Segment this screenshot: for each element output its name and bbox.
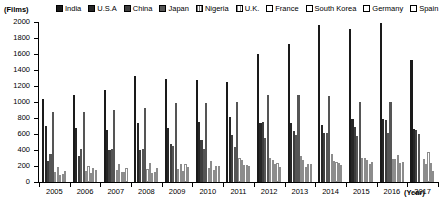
x-axis-tickmark: [438, 182, 439, 187]
x-axis-tickmark: [254, 182, 255, 187]
bar: [248, 166, 250, 182]
x-axis-tickmark: [39, 182, 40, 187]
y-axis-tick-label: 400: [17, 146, 30, 154]
y-axis-tick-label: 0: [26, 178, 30, 186]
legend-swatch-icon: [159, 5, 166, 12]
bar: [64, 171, 66, 182]
x-axis-tickmark: [100, 182, 101, 187]
bar: [371, 162, 373, 182]
legend-item-india[interactable]: India: [56, 5, 81, 13]
x-axis-tick-label: 2011: [223, 188, 254, 196]
legend-swatch-icon: [236, 5, 243, 12]
x-axis-tickmark: [192, 182, 193, 187]
x-axis-tickmark: [285, 182, 286, 187]
y-axis-labels: 2000180016001400120010008006004002000: [0, 22, 34, 182]
legend-swatch-icon: [124, 5, 131, 12]
y-axis-tick-label: 1400: [13, 66, 30, 74]
bar-group: [254, 22, 285, 182]
legend-item-u-s-a[interactable]: U.S.A: [88, 5, 117, 13]
bar-group: [315, 22, 346, 182]
legend-swatch-icon: [306, 5, 313, 12]
y-axis-tick-label: 1600: [13, 50, 30, 58]
bar: [125, 168, 127, 182]
bar: [218, 166, 220, 182]
x-axis-tickmark: [315, 182, 316, 187]
bar: [156, 168, 158, 182]
legend-item-japan[interactable]: Japan: [159, 5, 188, 13]
x-axis-tick-label: 2015: [346, 188, 377, 196]
bar: [187, 167, 189, 182]
x-axis-labels: 2005200620072008200920102011201220132014…: [39, 188, 438, 196]
y-axis-tick-label: 600: [17, 130, 30, 138]
bar-groups: [39, 22, 438, 182]
legend-swatch-icon: [266, 5, 273, 12]
legend-swatch-icon: [410, 5, 417, 12]
bar-group: [285, 22, 316, 182]
x-axis-tickmark: [70, 182, 71, 187]
x-axis-tickmark: [162, 182, 163, 187]
bar: [432, 171, 434, 182]
y-axis-tick-label: 800: [17, 114, 30, 122]
legend-item-south-korea[interactable]: South Korea: [306, 5, 357, 13]
legend-label: China: [133, 5, 153, 13]
bar-group: [346, 22, 377, 182]
bar-chart: (Films) IndiaU.S.AChinaJapanNigeriaU.K.F…: [0, 0, 445, 209]
legend-label: Spain: [419, 5, 438, 13]
x-axis-tick-label: 2013: [285, 188, 316, 196]
bar: [418, 134, 420, 182]
bar: [279, 167, 281, 182]
legend-item-france[interactable]: France: [266, 5, 298, 13]
legend-item-nigeria[interactable]: Nigeria: [196, 5, 229, 13]
legend-label: Nigeria: [205, 5, 229, 13]
legend-label: Germany: [372, 5, 403, 13]
legend-label: Japan: [168, 5, 188, 13]
x-axis-tick-label: 2014: [315, 188, 346, 196]
y-axis-tick-label: 1800: [13, 34, 30, 42]
legend-item-u-k[interactable]: U.K.: [236, 5, 260, 13]
x-axis-tick-label: 2009: [162, 188, 193, 196]
legend-swatch-icon: [363, 5, 370, 12]
bar: [310, 164, 312, 182]
legend-item-spain[interactable]: Spain: [410, 5, 438, 13]
y-axis-tick-label: 1000: [13, 98, 30, 106]
legend-label: South Korea: [315, 5, 357, 13]
x-axis-tick-label: 2008: [131, 188, 162, 196]
x-axis-tick-label: 2005: [39, 188, 70, 196]
legend-label: India: [65, 5, 81, 13]
bar-group: [223, 22, 254, 182]
x-axis-title: (Year): [404, 188, 425, 197]
y-axis-tick-label: 1200: [13, 82, 30, 90]
legend-swatch-icon: [88, 5, 95, 12]
legend-item-germany[interactable]: Germany: [363, 5, 403, 13]
y-axis-unit-label: (Films): [4, 5, 29, 14]
y-axis-tick-label: 200: [17, 162, 30, 170]
legend-label: France: [275, 5, 298, 13]
bar-group: [39, 22, 70, 182]
x-axis-tickmark: [346, 182, 347, 187]
bar-group: [70, 22, 101, 182]
y-axis-tick-label: 2000: [13, 18, 30, 26]
bar: [95, 170, 97, 182]
legend-label: U.S.A: [97, 5, 117, 13]
bar-group: [100, 22, 131, 182]
legend-label: U.K.: [245, 5, 260, 13]
bar-group: [407, 22, 438, 182]
bar: [340, 165, 342, 182]
x-axis-tick-label: 2016: [377, 188, 408, 196]
bar-group: [377, 22, 408, 182]
x-axis-tickmark: [377, 182, 378, 187]
bar: [402, 162, 404, 182]
chart-legend: IndiaU.S.AChinaJapanNigeriaU.K.FranceSou…: [56, 5, 438, 13]
x-axis-tickmark: [131, 182, 132, 187]
bar-group: [192, 22, 223, 182]
x-axis-tick-label: 2007: [100, 188, 131, 196]
bar-group: [162, 22, 193, 182]
bar-group: [131, 22, 162, 182]
legend-swatch-icon: [196, 5, 203, 12]
legend-item-china[interactable]: China: [124, 5, 153, 13]
x-axis-tick-label: 2012: [254, 188, 285, 196]
x-axis-tick-label: 2010: [192, 188, 223, 196]
x-axis-tickmark: [407, 182, 408, 187]
x-axis-tickmark: [223, 182, 224, 187]
x-axis-tick-label: 2006: [70, 188, 101, 196]
